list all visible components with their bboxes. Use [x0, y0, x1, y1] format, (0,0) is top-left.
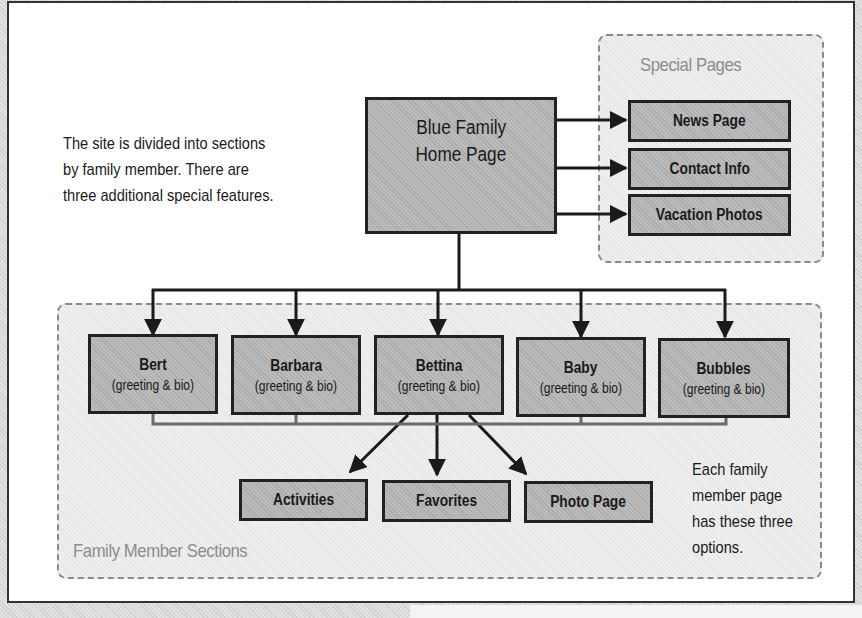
special-page-vacation[interactable]: Vacation Photos [628, 194, 791, 236]
option-box-favorites[interactable]: Favorites [382, 480, 511, 522]
family-sections-label: Family Member Sections [73, 540, 247, 562]
member-box-bubbles[interactable]: Bubbles (greeting & bio) [658, 338, 790, 418]
options-note: Each family member page has these three … [692, 457, 793, 561]
options-note-line: member page [692, 483, 793, 509]
option-title: Activities [273, 491, 334, 509]
special-page-contact[interactable]: Contact Info [628, 148, 791, 190]
member-subtitle: (greeting & bio) [112, 377, 194, 393]
intro-note-line: The site is divided into sections [63, 131, 273, 157]
special-pages-label: Special Pages [640, 54, 741, 76]
intro-note-line: by family member. There are [63, 157, 273, 183]
intro-note: The site is divided into sections by fam… [63, 131, 273, 209]
home-page-title-line2: Home Page [416, 141, 507, 168]
option-title: Photo Page [551, 493, 627, 511]
home-page-title-line1: Blue Family [416, 114, 506, 141]
special-page-title: News Page [673, 112, 746, 130]
intro-note-line: three additional special features. [63, 183, 273, 209]
option-title: Favorites [416, 492, 477, 510]
options-note-line: options. [692, 535, 793, 561]
member-name: Barbara [270, 357, 322, 375]
member-name: Bettina [416, 357, 463, 375]
member-box-bettina[interactable]: Bettina (greeting & bio) [374, 335, 504, 415]
special-page-news[interactable]: News Page [628, 100, 791, 142]
options-note-line: has these three [692, 509, 793, 535]
option-box-activities[interactable]: Activities [239, 479, 368, 521]
member-subtitle: (greeting & bio) [398, 378, 480, 394]
options-note-line: Each family [692, 457, 793, 483]
member-name: Bert [139, 356, 167, 374]
member-name: Baby [564, 359, 598, 377]
member-box-barbara[interactable]: Barbara (greeting & bio) [231, 335, 361, 415]
option-box-photo-page[interactable]: Photo Page [524, 481, 653, 523]
member-box-bert[interactable]: Bert (greeting & bio) [88, 334, 218, 414]
special-page-title: Vacation Photos [656, 206, 763, 224]
home-page-box[interactable]: Blue Family Home Page [365, 97, 557, 234]
special-page-title: Contact Info [669, 160, 749, 178]
member-box-baby[interactable]: Baby (greeting & bio) [516, 337, 646, 417]
member-name: Bubbles [697, 360, 751, 378]
page-edge [410, 605, 862, 618]
member-subtitle: (greeting & bio) [683, 381, 765, 397]
member-subtitle: (greeting & bio) [540, 380, 622, 396]
member-subtitle: (greeting & bio) [255, 378, 337, 394]
